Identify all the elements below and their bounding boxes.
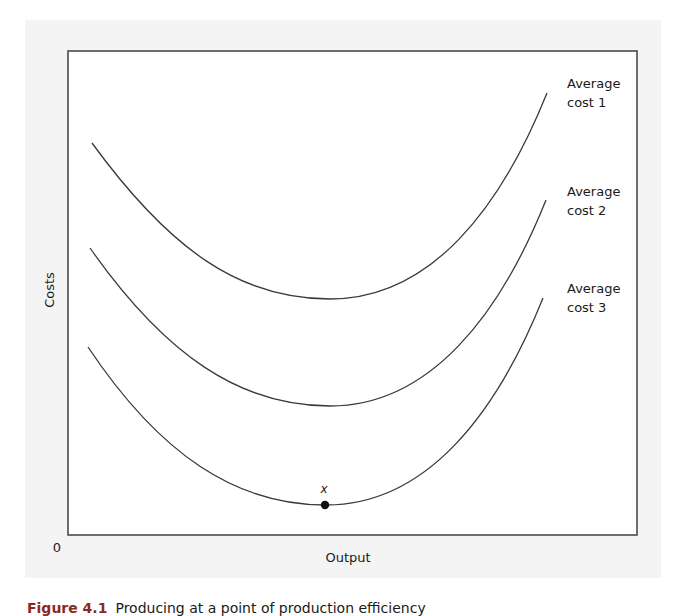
series-label-line: cost 2 bbox=[567, 201, 620, 220]
series-label-line: cost 3 bbox=[567, 298, 620, 317]
efficiency-point-label: x bbox=[320, 482, 327, 496]
series-label-line: Average bbox=[567, 182, 620, 201]
figure-number: Figure 4.1 bbox=[27, 600, 107, 616]
series-label-average-cost-3: Average cost 3 bbox=[567, 279, 620, 317]
origin-label: 0 bbox=[53, 540, 61, 555]
caption-text: Producing at a point of production effic… bbox=[115, 600, 425, 616]
series-label-average-cost-1: Average cost 1 bbox=[567, 74, 620, 112]
efficiency-point-marker bbox=[321, 501, 329, 509]
y-axis-label: Costs bbox=[42, 272, 57, 308]
series-label-average-cost-2: Average cost 2 bbox=[567, 182, 620, 220]
plot-area-frame bbox=[68, 51, 637, 535]
series-label-line: cost 1 bbox=[567, 93, 620, 112]
x-axis-label: Output bbox=[325, 550, 370, 565]
series-label-line: Average bbox=[567, 279, 620, 298]
series-label-line: Average bbox=[567, 74, 620, 93]
figure-caption: Figure 4.1Producing at a point of produc… bbox=[27, 600, 426, 616]
